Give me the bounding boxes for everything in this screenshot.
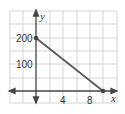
tick-y-200: 200: [16, 33, 33, 44]
line-graph: y x 200 100 4 8: [0, 0, 125, 114]
tick-x-4: 4: [60, 95, 66, 106]
point-x-intercept: [101, 89, 106, 94]
tick-x-8: 8: [87, 95, 93, 106]
x-axis-label: x: [110, 92, 116, 104]
point-y-intercept: [34, 36, 39, 41]
y-axis-label: y: [39, 10, 45, 22]
tick-y-100: 100: [16, 59, 33, 70]
